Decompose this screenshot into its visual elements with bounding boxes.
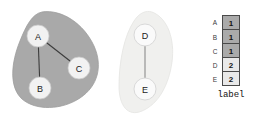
- graph-diagram: A B C D E A 1: [0, 0, 255, 124]
- row-label-a: A: [213, 19, 218, 26]
- cell-e-value: 2: [229, 75, 234, 84]
- cell-b-value: 1: [229, 33, 234, 42]
- table-row[interactable]: E 2: [213, 72, 240, 86]
- node-c-label: C: [76, 64, 83, 74]
- node-a[interactable]: A: [27, 25, 49, 47]
- table-row[interactable]: A 1: [213, 16, 240, 30]
- node-e-label: E: [142, 85, 148, 95]
- row-label-b: B: [213, 34, 217, 41]
- label-table: A 1 B 1 C 1 D 2: [213, 16, 245, 101]
- row-label-e: E: [213, 76, 218, 83]
- node-a-label: A: [35, 32, 41, 42]
- node-d[interactable]: D: [134, 24, 156, 46]
- table-row[interactable]: C 1: [213, 44, 240, 58]
- table-row[interactable]: B 1: [213, 30, 240, 44]
- row-label-d: D: [213, 62, 218, 69]
- figure-canvas: A B C D E A 1: [0, 0, 255, 124]
- node-e[interactable]: E: [134, 78, 156, 100]
- node-b-label: B: [37, 84, 43, 94]
- node-d-label: D: [142, 31, 149, 41]
- cell-c-value: 1: [229, 47, 234, 56]
- table-row[interactable]: D 2: [213, 58, 240, 72]
- node-b[interactable]: B: [29, 77, 51, 99]
- cell-d-value: 2: [229, 61, 234, 70]
- table-caption: label: [217, 90, 244, 100]
- row-label-c: C: [213, 48, 218, 55]
- node-c[interactable]: C: [68, 57, 90, 79]
- cell-a-value: 1: [229, 19, 234, 28]
